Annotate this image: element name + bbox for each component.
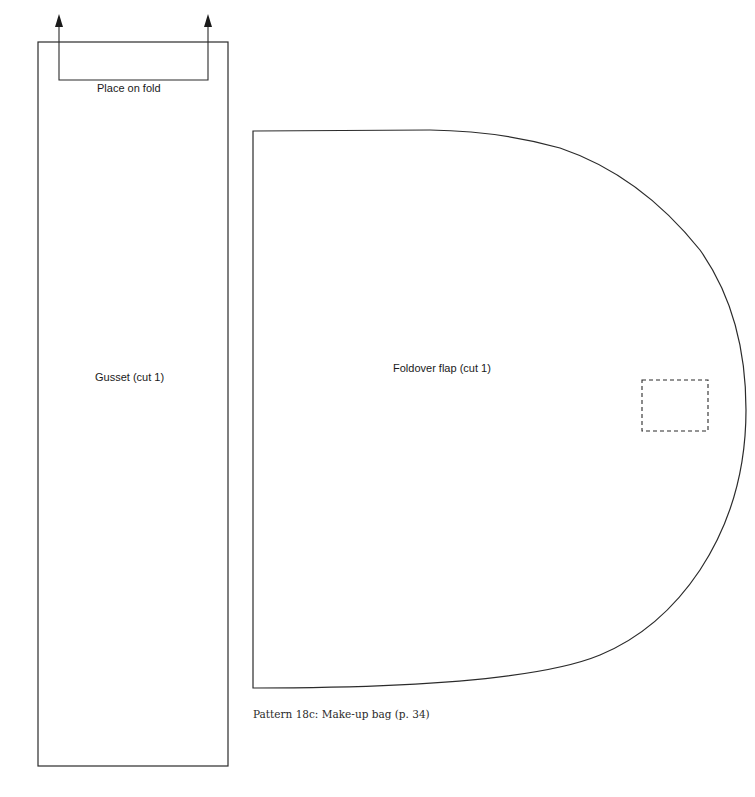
gusset-outline [38,42,228,766]
pattern-sheet [0,0,755,797]
dashed-placement-marker [642,380,708,431]
flap-label: Foldover flap (cut 1) [393,362,491,374]
pattern-caption: Pattern 18c: Make-up bag (p. 34) [253,708,430,720]
place-on-fold-label: Place on fold [97,82,161,94]
gusset-label: Gusset (cut 1) [95,371,164,383]
arrow-up-icon [55,14,63,27]
flap-outline [253,130,746,688]
arrow-up-icon [204,14,212,27]
fold-bracket-line [59,27,208,80]
